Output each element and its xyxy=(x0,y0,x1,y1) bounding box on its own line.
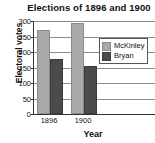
plot-area: 300 250 200 150 100 50 0 xyxy=(33,21,155,115)
bar-mckinley-1896 xyxy=(37,30,50,114)
legend: McKinley Bryan xyxy=(99,38,148,64)
y-tick-label-0: 0 xyxy=(9,110,31,119)
y-tick-label-300: 300 xyxy=(9,17,31,26)
y-tick-label-100: 100 xyxy=(9,79,31,88)
tickmark-0 xyxy=(31,114,34,115)
legend-item-bryan: Bryan xyxy=(102,51,144,61)
legend-label-bryan: Bryan xyxy=(114,51,134,61)
legend-swatch-icon-mckinley xyxy=(102,42,111,51)
x-tick-label-1900: 1900 xyxy=(75,116,92,125)
bar-bryan-1900 xyxy=(84,66,97,114)
x-axis-label: Year xyxy=(33,129,153,139)
bars-container xyxy=(34,21,155,114)
y-tick-label-150: 150 xyxy=(9,63,31,72)
x-tick-label-1896: 1896 xyxy=(41,116,58,125)
bar-mckinley-1900 xyxy=(71,23,84,114)
bar-bryan-1896 xyxy=(50,59,63,114)
y-tick-label-50: 50 xyxy=(9,94,31,103)
y-tick-label-250: 250 xyxy=(9,32,31,41)
legend-swatch-icon-bryan xyxy=(102,52,111,61)
y-tick-label-200: 200 xyxy=(9,48,31,57)
legend-label-mckinley: McKinley xyxy=(114,41,144,51)
bar-chart: Elections of 1896 and 1900 Electoral vot… xyxy=(0,0,155,143)
legend-item-mckinley: McKinley xyxy=(102,41,144,51)
chart-title: Elections of 1896 and 1900 xyxy=(24,2,154,14)
